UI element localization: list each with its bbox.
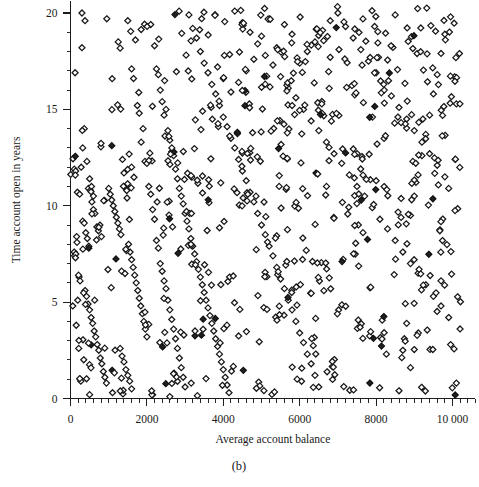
- data-point-marker: [388, 93, 394, 99]
- data-point-marker: [209, 116, 215, 122]
- data-point-marker: [185, 68, 191, 74]
- data-point-marker: [102, 374, 108, 380]
- data-points-group: [68, 4, 464, 400]
- data-point-marker: [88, 315, 94, 321]
- data-point-marker: [140, 126, 146, 132]
- data-point-marker: [72, 70, 78, 76]
- data-point-marker: [167, 307, 173, 313]
- data-point-marker: [136, 295, 142, 301]
- data-point-marker: [216, 98, 222, 104]
- data-point-marker: [434, 72, 440, 78]
- data-point-marker: [292, 112, 298, 118]
- data-point-marker: [118, 375, 124, 381]
- data-point-marker: [327, 54, 333, 60]
- data-point-marker: [313, 315, 319, 321]
- data-point-marker: [448, 249, 454, 255]
- data-point-marker: [87, 392, 93, 398]
- data-point-marker: [161, 225, 167, 231]
- data-point-marker: [261, 199, 267, 205]
- data-point-marker: [76, 345, 82, 351]
- data-point-marker: [400, 347, 406, 353]
- data-point-marker: [258, 129, 264, 135]
- data-point-marker: [157, 87, 163, 93]
- data-point-marker: [270, 253, 276, 259]
- data-point-marker: [253, 247, 259, 253]
- data-point-marker: [228, 89, 234, 95]
- data-point-marker: [102, 345, 108, 351]
- data-point-marker: [176, 185, 182, 191]
- data-point-marker: [308, 361, 314, 367]
- data-point-marker: [313, 351, 319, 357]
- data-point-marker: [398, 195, 404, 201]
- data-point-marker: [238, 7, 244, 13]
- data-point-marker: [411, 128, 417, 134]
- data-point-marker: [221, 52, 227, 58]
- data-point-marker: [326, 275, 332, 281]
- data-point-marker: [386, 78, 392, 84]
- data-point-marker: [205, 70, 211, 76]
- data-point-marker: [278, 205, 284, 211]
- data-point-marker: [130, 264, 136, 270]
- data-point-marker: [308, 118, 314, 124]
- data-point-marker: [327, 18, 333, 24]
- data-point-marker: [442, 37, 448, 43]
- data-point-marker: [131, 174, 137, 180]
- data-point-marker: [335, 10, 341, 16]
- data-point-marker: [236, 333, 242, 339]
- data-point-marker: [444, 242, 450, 248]
- data-point-marker: [377, 385, 383, 391]
- data-point-marker: [291, 258, 297, 264]
- data-point-marker: [173, 166, 179, 172]
- data-point-marker: [243, 178, 249, 184]
- data-point-marker: [310, 343, 316, 349]
- data-point-marker: [98, 234, 104, 240]
- data-point-marker: [301, 340, 307, 346]
- data-point-marker: [152, 43, 158, 49]
- data-point-marker: [250, 130, 256, 136]
- data-point-marker: [345, 211, 351, 217]
- data-point-marker: [237, 306, 243, 312]
- data-point-marker: [107, 191, 113, 197]
- scatter-plot-svg: 0200040006000800010 00005101520Average a…: [0, 0, 479, 487]
- data-point-marker: [201, 60, 207, 66]
- data-point-marker: [91, 328, 97, 334]
- data-point-marker: [163, 286, 169, 292]
- data-point-marker: [255, 210, 261, 216]
- data-point-marker: [188, 380, 194, 386]
- data-point-marker: [148, 191, 154, 197]
- data-point-marker: [430, 196, 436, 202]
- data-point-marker: [403, 221, 409, 227]
- data-point-marker: [197, 274, 203, 280]
- data-point-marker: [323, 260, 329, 266]
- data-point-marker: [236, 79, 242, 85]
- data-point-marker: [435, 182, 441, 188]
- data-point-marker: [304, 49, 310, 55]
- data-point-marker: [375, 40, 381, 46]
- data-point-marker: [136, 90, 142, 96]
- data-point-marker: [432, 170, 438, 176]
- data-point-marker: [162, 329, 168, 335]
- data-point-marker: [79, 45, 85, 51]
- data-point-marker: [216, 351, 222, 357]
- data-point-marker: [173, 69, 179, 75]
- data-point-marker: [430, 91, 436, 97]
- data-point-marker: [188, 38, 194, 44]
- data-point-marker: [184, 218, 190, 224]
- data-point-marker: [398, 214, 404, 220]
- data-point-marker: [262, 232, 268, 238]
- data-point-marker: [115, 39, 121, 45]
- data-point-marker: [258, 12, 264, 18]
- data-point-marker: [165, 128, 171, 134]
- data-point-marker: [248, 157, 254, 163]
- data-point-marker: [179, 30, 185, 36]
- data-point-marker: [424, 327, 430, 333]
- data-point-marker: [190, 25, 196, 31]
- data-point-marker: [108, 285, 114, 291]
- data-point-marker: [154, 199, 160, 205]
- data-point-marker: [303, 247, 309, 253]
- data-point-marker: [402, 301, 408, 307]
- data-point-marker: [206, 177, 212, 183]
- data-point-marker: [289, 31, 295, 37]
- y-tick-label: 10: [46, 200, 58, 212]
- data-point-marker: [365, 236, 371, 242]
